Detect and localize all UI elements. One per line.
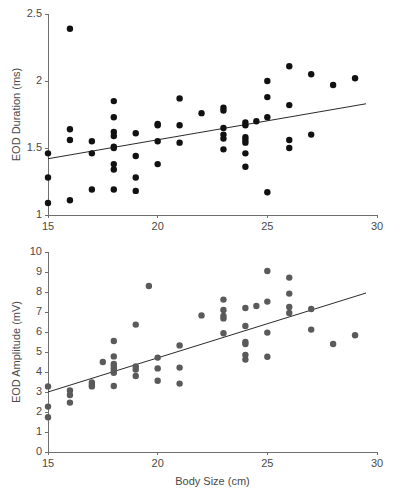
y-axis-title: EOD Amplitude (mV) <box>10 301 22 403</box>
data-point <box>242 150 248 156</box>
data-point <box>133 321 139 327</box>
data-point <box>45 383 51 389</box>
data-point <box>308 326 314 332</box>
data-point <box>154 161 160 167</box>
data-point <box>264 114 270 120</box>
data-point <box>176 380 182 386</box>
x-tick-label: 30 <box>371 220 383 232</box>
data-point <box>89 150 95 156</box>
data-point <box>220 315 226 321</box>
data-point <box>154 365 160 371</box>
data-point <box>67 26 73 32</box>
data-point <box>264 78 270 84</box>
y-tick-label: 4 <box>36 365 42 377</box>
y-tick-label: 2 <box>36 405 42 417</box>
data-point <box>308 306 314 312</box>
y-tick-label: 2 <box>36 74 42 86</box>
data-point <box>220 135 226 141</box>
data-point <box>111 114 117 120</box>
data-point <box>253 118 259 124</box>
data-point <box>242 323 248 329</box>
data-point <box>67 392 73 398</box>
x-tick-label: 15 <box>42 220 54 232</box>
data-point <box>89 138 95 144</box>
data-point <box>100 359 106 365</box>
data-point <box>111 166 117 172</box>
x-tick-label: 30 <box>371 457 383 469</box>
data-point <box>111 383 117 389</box>
y-tick-label: 10 <box>30 245 42 257</box>
scatter-figure: 11.522.515202530EOD Duration (ms) 012345… <box>0 0 405 495</box>
y-tick-label: 9 <box>36 265 42 277</box>
data-point <box>89 186 95 192</box>
y-tick-label: 7 <box>36 305 42 317</box>
data-point <box>220 107 226 113</box>
data-point <box>176 342 182 348</box>
data-point <box>154 354 160 360</box>
data-point <box>133 153 139 159</box>
data-point <box>45 414 51 420</box>
data-point <box>111 133 117 139</box>
y-tick-label: 0 <box>36 445 42 457</box>
y-tick-label: 1.5 <box>27 141 42 153</box>
data-point <box>111 338 117 344</box>
data-point <box>352 75 358 81</box>
data-point <box>133 366 139 372</box>
y-tick-label: 1 <box>36 425 42 437</box>
data-point <box>67 197 73 203</box>
data-point <box>352 332 358 338</box>
data-point <box>45 403 51 409</box>
x-tick-label: 25 <box>261 457 273 469</box>
data-point <box>264 329 270 335</box>
data-point <box>176 95 182 101</box>
data-point <box>133 174 139 180</box>
data-point <box>146 283 152 289</box>
data-point <box>286 310 292 316</box>
y-tick-label: 2.5 <box>27 7 42 19</box>
data-point <box>264 298 270 304</box>
x-axis-title: Body Size (cm) <box>175 475 250 487</box>
data-point <box>242 305 248 311</box>
data-point <box>264 94 270 100</box>
regression-trend-line <box>48 293 366 392</box>
x-tick-label: 20 <box>152 457 164 469</box>
data-point <box>111 370 117 376</box>
data-point <box>67 399 73 405</box>
data-point <box>220 307 226 313</box>
data-point <box>286 290 292 296</box>
y-axis-title: EOD Duration (ms) <box>10 68 22 162</box>
data-point <box>67 126 73 132</box>
data-point <box>286 63 292 69</box>
data-point <box>198 312 204 318</box>
data-point <box>242 164 248 170</box>
x-tick-label: 20 <box>152 220 164 232</box>
data-point <box>264 268 270 274</box>
data-point <box>111 353 117 359</box>
data-point <box>264 189 270 195</box>
y-tick-label: 8 <box>36 285 42 297</box>
data-point <box>111 186 117 192</box>
data-point <box>176 122 182 128</box>
x-tick-label: 15 <box>42 457 54 469</box>
data-point <box>330 82 336 88</box>
data-point <box>308 71 314 77</box>
data-point <box>286 145 292 151</box>
data-point <box>220 146 226 152</box>
data-point <box>154 138 160 144</box>
data-point <box>89 383 95 389</box>
data-point <box>111 98 117 104</box>
data-point <box>154 378 160 384</box>
y-tick-label: 1 <box>36 208 42 220</box>
data-point <box>176 139 182 145</box>
data-point <box>242 341 248 347</box>
data-point <box>264 354 270 360</box>
data-point <box>308 131 314 137</box>
y-tick-label: 5 <box>36 345 42 357</box>
data-point <box>67 137 73 143</box>
y-tick-label: 3 <box>36 385 42 397</box>
x-tick-label: 25 <box>261 220 273 232</box>
data-point <box>176 364 182 370</box>
regression-trend-line <box>48 104 366 159</box>
eod-duration-panel: 11.522.515202530EOD Duration (ms) <box>0 0 405 240</box>
data-point <box>133 130 139 136</box>
